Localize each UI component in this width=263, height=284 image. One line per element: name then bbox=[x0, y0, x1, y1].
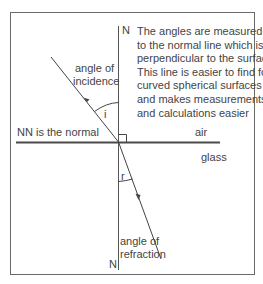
incidence-label-line1: angle of bbox=[75, 62, 114, 74]
normal-top-label: N bbox=[122, 24, 130, 36]
note-line: perpendicular to the surface. bbox=[137, 52, 262, 66]
refraction-symbol: r bbox=[121, 170, 125, 182]
normal-note: NN is the normal bbox=[17, 126, 99, 138]
right-angle-marker bbox=[119, 135, 127, 143]
refracted-arrow-icon bbox=[136, 194, 141, 201]
note-line: and makes measurements bbox=[137, 93, 262, 107]
incidence-arc bbox=[95, 103, 119, 112]
refraction-label-line1: angle of bbox=[120, 235, 159, 247]
note-line: and calculations easier bbox=[137, 107, 262, 121]
note-line: curved spherical surfaces bbox=[137, 79, 262, 93]
note-line: to the normal line which is bbox=[137, 39, 262, 53]
explanation-note: The angles are measured to the normal li… bbox=[137, 25, 262, 120]
normal-bottom-label: N bbox=[109, 258, 117, 270]
refraction-label-line2: refraction bbox=[120, 248, 166, 260]
incidence-symbol: i bbox=[104, 108, 106, 120]
medium-air-label: air bbox=[195, 126, 207, 138]
medium-glass-label: glass bbox=[201, 151, 227, 163]
incidence-label-line2: incidence bbox=[73, 75, 119, 87]
note-line: This line is easier to find for bbox=[137, 66, 262, 80]
note-line: The angles are measured bbox=[137, 25, 262, 39]
